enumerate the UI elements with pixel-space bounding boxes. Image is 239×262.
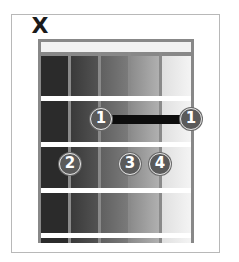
finger-dot: 4 <box>149 153 171 175</box>
fretboard-column-4 <box>131 56 159 243</box>
fret-line-3 <box>41 188 191 193</box>
finger-dot: 1 <box>90 108 112 130</box>
string-5 <box>159 52 162 243</box>
string-4 <box>128 52 131 243</box>
finger-dot: 2 <box>59 153 81 175</box>
nut <box>41 42 191 52</box>
fretboard-column-5 <box>162 56 191 243</box>
fretboard-column-2 <box>71 56 98 243</box>
fret-line-2 <box>41 142 191 147</box>
string-2 <box>68 52 71 243</box>
muted-string-marker: X <box>31 17 49 35</box>
finger-dot: 3 <box>119 153 141 175</box>
finger-dot: 1 <box>180 108 202 130</box>
string-3 <box>98 52 101 243</box>
fret-line-4 <box>41 233 191 238</box>
fretboard-column-3 <box>101 56 128 243</box>
fret-line-1 <box>41 96 191 101</box>
fretboard-column-1 <box>41 56 68 243</box>
barre-bar <box>110 115 182 124</box>
